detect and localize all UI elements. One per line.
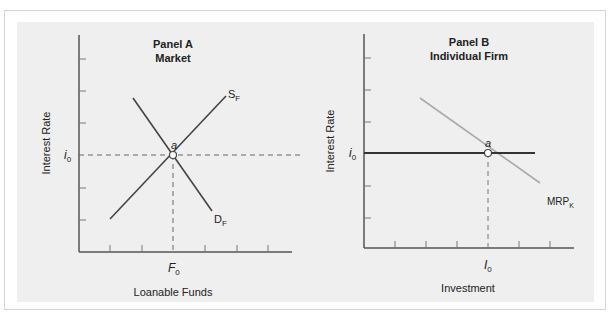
panel-b-y-label: Interest Rate (324, 110, 336, 173)
mrpk-curve (420, 98, 540, 183)
panel-b-title: Panel B (449, 36, 489, 48)
panel-b-subtitle: Individual Firm (430, 50, 508, 62)
panel-a-point-label: a (171, 139, 177, 151)
panel-b-y-ticks (364, 58, 371, 218)
supply-curve-sf (110, 96, 226, 219)
panel-b-point-label: a (485, 137, 491, 149)
panel-a-x-label: Loanable Funds (134, 286, 213, 298)
panel-b-i0-label: i0 (349, 146, 357, 162)
panel-a-y-label: Interest Rate (40, 112, 52, 175)
panel-b-x-label: Investment (441, 282, 495, 294)
supply-label: SF (228, 88, 240, 103)
panel-a-equilibrium-point (170, 152, 177, 159)
figure-svg: Panel A Market a SF (0, 0, 611, 312)
mrpk-label: MRPK (547, 196, 574, 209)
panel-a-f0-label: F0 (168, 261, 180, 277)
panel-a-title: Panel A (153, 38, 193, 50)
panel-b-investment0-label: I0 (484, 258, 492, 274)
panel-a-x-ticks (110, 245, 268, 252)
panel-b-equilibrium-point (485, 150, 492, 157)
panel-a: Panel A Market a SF (40, 35, 300, 298)
panel-b: Panel B Individual Firm a (324, 34, 574, 294)
panel-a-i0-label: i0 (64, 148, 72, 164)
panel-a-y-ticks (79, 59, 86, 220)
panel-b-x-ticks (395, 241, 550, 248)
demand-label: DF (214, 213, 227, 228)
panel-a-subtitle: Market (155, 52, 191, 64)
